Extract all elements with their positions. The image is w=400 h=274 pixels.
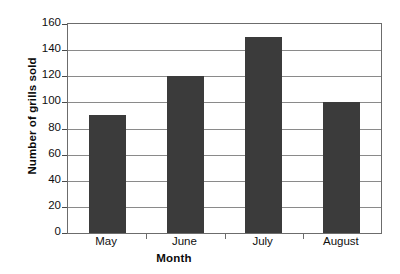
x-tick-label-july: July [223, 236, 303, 248]
y-tick-mark [62, 181, 67, 182]
x-tick-label-august: August [301, 236, 381, 248]
x-tick-label-may: May [66, 236, 146, 248]
y-tick-label: 160 [30, 17, 61, 29]
y-axis-tick-labels: 020406080100120140160 [30, 0, 61, 274]
y-tick-mark [62, 76, 67, 77]
bar-chart: Number of grills sold 020406080100120140… [0, 0, 400, 274]
y-tick-label: 100 [30, 95, 61, 107]
bar-may [89, 115, 126, 233]
bar-august [323, 102, 360, 233]
y-tick-mark [62, 155, 67, 156]
y-tick-label: 40 [30, 174, 61, 186]
y-tick-mark [62, 129, 67, 130]
plot-area [67, 23, 382, 234]
gridline [68, 50, 381, 51]
y-tick-mark [62, 24, 67, 25]
bar-june [167, 76, 204, 233]
y-tick-label: 20 [30, 200, 61, 212]
gridline [68, 76, 381, 77]
y-tick-label: 140 [30, 43, 61, 55]
x-axis-title-text: Month [156, 252, 191, 264]
y-tick-label: 80 [30, 122, 61, 134]
x-tick-label-june: June [144, 236, 224, 248]
y-tick-label: 60 [30, 148, 61, 160]
y-tick-mark [62, 50, 67, 51]
x-axis-title: Month [0, 252, 400, 264]
y-tick-label: 0 [30, 226, 61, 238]
bar-july [245, 37, 282, 233]
y-tick-mark [62, 207, 67, 208]
y-tick-mark [62, 233, 67, 234]
y-tick-label: 120 [30, 69, 61, 81]
y-tick-mark [62, 102, 67, 103]
